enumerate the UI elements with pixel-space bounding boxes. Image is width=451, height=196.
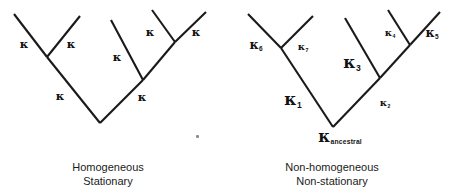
right-branch-cladeB-to-subnode (380, 45, 410, 78)
left-branch-root-to-cladeB (100, 80, 143, 123)
left-label-kappa-1: κ (20, 39, 29, 51)
left-label-kappa-4: κ (146, 27, 155, 39)
left-tree-caption: Homogeneous Stationary (72, 160, 144, 188)
left-branch-tip-5 (175, 12, 206, 42)
left-branch-cladeB-to-subnode (143, 42, 175, 80)
right-branch-root-to-cladeA (281, 48, 333, 127)
figure-root: κ κ κ κ κ κ κ κ6 κ7 κ4 κ5 κ3 κ1 κ2 κance… (0, 0, 451, 196)
left-caption-line-2: Stationary (72, 174, 144, 188)
right-label-kappa-6: κ6 (249, 39, 262, 52)
left-branch-tip-4 (152, 10, 175, 42)
left-label-kappa-2: κ (67, 39, 76, 51)
right-branch-root-to-cladeB (333, 78, 380, 127)
right-label-kappa-1: κ1 (284, 92, 301, 109)
right-label-kappa-ancestral: κancestral (318, 129, 361, 145)
left-tree-branches (14, 10, 206, 123)
right-label-kappa-3: κ3 (343, 55, 360, 72)
scan-artifact-dot (196, 135, 199, 138)
right-caption-line-2: Non-stationary (285, 174, 379, 188)
left-label-kappa-6: κ (56, 91, 65, 103)
right-label-kappa-2: κ2 (380, 98, 391, 108)
right-label-kappa-7: κ7 (298, 42, 309, 52)
right-label-kappa-4: κ4 (385, 28, 396, 38)
left-label-kappa-7: κ (138, 92, 147, 104)
left-caption-line-1: Homogeneous (72, 160, 144, 174)
left-label-kappa-5: κ (192, 27, 201, 39)
right-label-kappa-5: κ5 (425, 27, 438, 40)
left-label-kappa-3: κ (113, 52, 122, 64)
right-tree-caption: Non-homogeneous Non-stationary (285, 160, 379, 188)
right-caption-line-1: Non-homogeneous (285, 160, 379, 174)
